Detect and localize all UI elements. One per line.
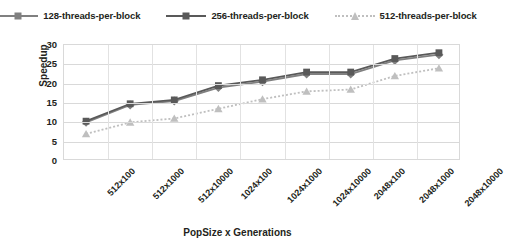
x-tick-label: 2048x10000 xyxy=(463,166,505,208)
x-tick-label: 2048x100 xyxy=(371,166,406,201)
x-tick-label: 1024x10000 xyxy=(330,166,372,208)
x-tick-label: 2048x1000 xyxy=(417,166,456,205)
x-tick-label: 1024x1000 xyxy=(285,166,324,205)
x-tick-label: 512x100 xyxy=(105,166,137,198)
x-tick-label: 512x10000 xyxy=(196,166,235,205)
x-axis-title: PopSize x Generations xyxy=(0,227,475,238)
x-tick-label: 1024x100 xyxy=(239,166,274,201)
x-tick-label: 512x1000 xyxy=(151,166,186,201)
